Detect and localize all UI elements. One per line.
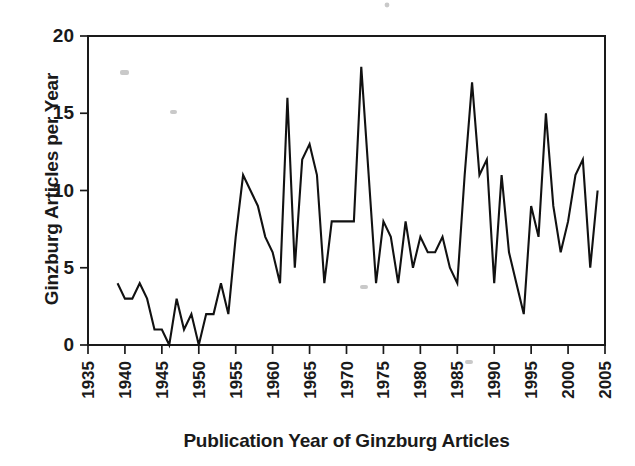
y-tick-label: 0: [63, 334, 74, 355]
x-tick-label: 1990: [485, 361, 504, 399]
scan-artifacts: [120, 3, 473, 364]
x-tick-label: 1970: [338, 361, 357, 399]
x-tick-label: 1965: [301, 361, 320, 399]
x-tick-label: 1950: [190, 361, 209, 399]
y-tick-label: 15: [53, 102, 75, 123]
x-tick-label: 1960: [264, 361, 283, 399]
axis-frame: [88, 36, 605, 345]
x-tick-label: 1940: [116, 361, 135, 399]
x-tick-label: 1995: [522, 361, 541, 399]
x-tick-label: 1955: [227, 361, 246, 399]
y-tick-label: 10: [53, 180, 74, 201]
x-axis-title: Publication Year of Ginzburg Articles: [88, 430, 605, 452]
line-chart-plot: 05101520 1935194019451950195519601965197…: [0, 0, 635, 466]
data-series-line: [118, 67, 598, 345]
y-axis-ticks: 05101520: [53, 25, 88, 355]
x-tick-label: 2000: [559, 361, 578, 399]
x-tick-label: 1975: [374, 361, 393, 399]
chart-figure: Ginzburg Articles per Year 05101520 1935…: [0, 0, 635, 466]
x-tick-label: 2005: [596, 361, 615, 399]
x-tick-label: 1980: [411, 361, 430, 399]
x-tick-label: 1945: [153, 361, 172, 399]
x-tick-label: 1935: [79, 361, 98, 399]
y-tick-label: 5: [63, 257, 74, 278]
x-tick-label: 1985: [448, 361, 467, 399]
y-tick-label: 20: [53, 25, 74, 46]
x-axis-ticks: 1935194019451950195519601965197019751980…: [79, 345, 615, 399]
